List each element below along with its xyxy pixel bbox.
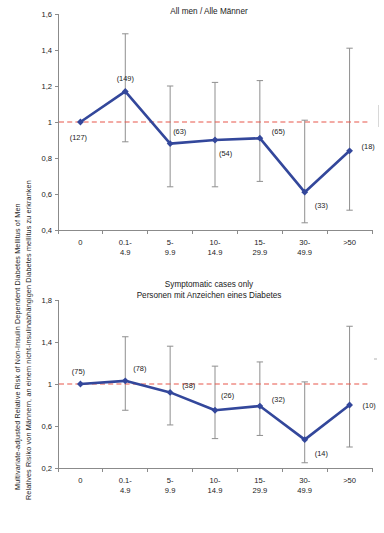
scan-artifact-right — [378, 105, 379, 127]
error-bar — [302, 120, 308, 223]
x-tick-label: 49.9 — [297, 486, 312, 495]
y-tick-label: 0,2 — [41, 464, 52, 473]
x-tick-label: 0.1- — [119, 476, 133, 485]
scan-artifact-right-lower — [374, 358, 377, 360]
data-point-marker[interactable] — [212, 407, 219, 414]
data-point-label: (38) — [182, 381, 195, 390]
chart-title-line: Symptomatic cases only — [34, 279, 384, 290]
data-point-label: (10) — [363, 401, 376, 410]
error-bar — [346, 326, 352, 447]
data-point-label: (63) — [173, 127, 186, 136]
x-tick-label: 30- — [299, 238, 310, 247]
x-tick-label: 29.9 — [252, 248, 267, 257]
error-bar — [122, 34, 128, 142]
error-bar — [302, 382, 308, 463]
error-bar — [167, 86, 173, 187]
chart-title-line: All men / Alle Männer — [34, 6, 384, 17]
error-bar — [122, 337, 128, 411]
y-axis-label-english: Multivariate-adjusted Relative Risk of N… — [13, 203, 22, 490]
x-tick-label: 5- — [167, 238, 174, 247]
x-tick-label: 0.1- — [119, 238, 133, 247]
x-tick-label: >50 — [343, 476, 356, 485]
chart-title-symptomatic: Symptomatic cases only Personen mit Anze… — [34, 279, 384, 301]
error-bar — [346, 48, 352, 210]
x-tick-label: 15- — [254, 476, 265, 485]
x-tick-label: 29.9 — [252, 486, 267, 495]
y-axis-label-group: Multivariate-adjusted Relative Risk of N… — [0, 0, 34, 533]
x-tick-label: 5- — [167, 476, 174, 485]
x-tick-label: 4.9 — [120, 486, 131, 495]
y-tick-label: 1 — [48, 118, 52, 127]
x-tick-label: >50 — [343, 238, 356, 247]
x-tick-label: 10- — [210, 476, 221, 485]
y-tick-label: 1,4 — [41, 46, 52, 55]
chart-panel-all-men: All men / Alle Männer 0,40,60,811,21,41,… — [34, 0, 384, 268]
chart-title-all-men: All men / Alle Männer — [34, 6, 384, 17]
x-tick-label: 4.9 — [120, 248, 131, 257]
error-bar — [167, 346, 173, 425]
error-bar — [257, 81, 263, 182]
chart-svg-all-men: 0,40,60,811,21,41,600.1-4.95-9.910-14.91… — [34, 0, 384, 268]
x-tick-label: 9.9 — [165, 486, 176, 495]
x-tick-label: 30- — [299, 476, 310, 485]
chart-svg-symptomatic: 0,20,611,41,800.1-4.95-9.910-14.915-29.9… — [34, 265, 384, 533]
data-point-label: (54) — [219, 149, 232, 158]
x-tick-label: 10- — [210, 238, 221, 247]
data-point-marker[interactable] — [167, 389, 174, 396]
data-point-label: (65) — [272, 127, 285, 136]
data-point-label: (32) — [272, 395, 285, 404]
y-tick-label: 0,4 — [41, 226, 52, 235]
error-bar — [212, 82, 218, 186]
chart-panel-symptomatic: Symptomatic cases only Personen mit Anze… — [34, 265, 384, 533]
data-point-marker[interactable] — [212, 137, 219, 144]
x-tick-label: 14.9 — [208, 486, 223, 495]
y-tick-label: 1,4 — [41, 338, 52, 347]
data-point-label: (18) — [362, 142, 375, 151]
y-tick-label: 0,6 — [41, 190, 52, 199]
y-tick-label: 1 — [48, 380, 52, 389]
x-tick-label: 15- — [254, 238, 265, 247]
y-axis-label-german: Relatives Risiko von Männern, an einem n… — [24, 180, 33, 500]
x-tick-label: 14.9 — [208, 248, 223, 257]
data-point-label: (127) — [70, 133, 87, 142]
y-tick-label: 0,6 — [41, 422, 52, 431]
x-tick-label: 0 — [78, 238, 82, 247]
y-tick-label: 0,8 — [41, 154, 52, 163]
data-point-label: (78) — [133, 364, 146, 373]
chart-title-line: Personen mit Anzeichen eines Diabetes — [34, 290, 384, 301]
data-point-label: (26) — [221, 391, 234, 400]
x-tick-label: 0 — [78, 476, 82, 485]
error-bar — [257, 362, 263, 436]
data-point-marker[interactable] — [122, 377, 129, 384]
figure-container: Multivariate-adjusted Relative Risk of N… — [0, 0, 384, 533]
x-tick-label: 9.9 — [165, 248, 176, 257]
data-point-marker[interactable] — [77, 381, 84, 388]
data-point-label: (33) — [315, 201, 328, 210]
data-point-label: (149) — [117, 74, 134, 83]
error-bar — [212, 366, 218, 438]
y-tick-label: 1,2 — [41, 82, 52, 91]
data-point-label: (75) — [72, 367, 85, 376]
x-tick-label: 49.9 — [297, 248, 312, 257]
data-point-label: (14) — [315, 449, 328, 458]
